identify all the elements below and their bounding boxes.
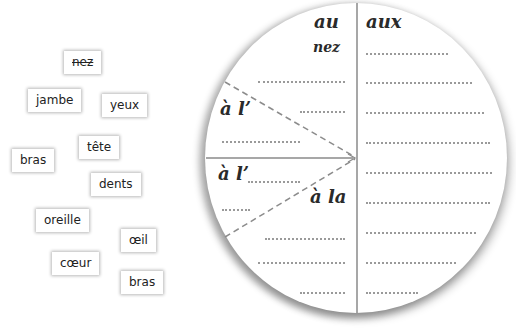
answer-line[interactable] <box>258 262 345 264</box>
section-label-a-la: à la <box>310 188 346 206</box>
answer-line[interactable] <box>265 238 345 240</box>
answer-line[interactable] <box>366 82 472 84</box>
disc-dividers <box>0 0 516 330</box>
header-aux: aux <box>366 13 401 31</box>
answer-au-nez: nez <box>313 40 340 54</box>
section-label-a-l-lower: à l’ <box>218 165 249 183</box>
answer-line[interactable] <box>366 112 484 114</box>
answer-line[interactable] <box>366 262 456 264</box>
answer-line[interactable] <box>248 181 300 183</box>
answer-line[interactable] <box>366 142 490 144</box>
dashed-divider-upper <box>225 82 355 157</box>
answer-line[interactable] <box>366 292 418 294</box>
answer-line[interactable] <box>366 232 476 234</box>
answer-line[interactable] <box>222 209 250 211</box>
answer-line[interactable] <box>366 53 448 55</box>
section-label-a-l-upper: à l’ <box>220 100 251 118</box>
answer-line[interactable] <box>258 81 345 83</box>
answer-line[interactable] <box>366 172 492 174</box>
answer-line[interactable] <box>222 141 300 143</box>
answer-line[interactable] <box>300 111 345 113</box>
answer-line[interactable] <box>366 202 490 204</box>
header-au: au <box>314 13 339 31</box>
answer-line[interactable] <box>300 292 345 294</box>
